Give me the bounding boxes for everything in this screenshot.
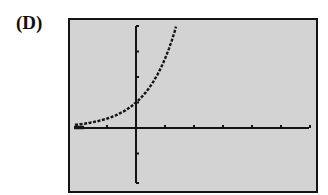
axis-ticks xyxy=(107,26,310,154)
axes xyxy=(74,26,309,183)
exponential-curve xyxy=(75,27,176,125)
graph-plot xyxy=(0,0,328,195)
